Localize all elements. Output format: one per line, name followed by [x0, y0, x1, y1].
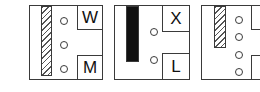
circle-icon	[60, 17, 68, 25]
circle-icon	[235, 33, 243, 41]
label-box-top: W	[77, 5, 103, 30]
circle-icon	[235, 16, 243, 24]
label-box-top: V	[251, 5, 260, 30]
label-box-bottom: L	[162, 53, 190, 80]
circle-icon	[235, 68, 243, 76]
circle-icon	[60, 65, 68, 73]
solid-bar	[126, 6, 139, 62]
label-box-bottom: M	[77, 55, 103, 80]
panel-1: W M	[29, 5, 103, 80]
panel-3: V I	[201, 5, 260, 80]
circle-icon	[235, 51, 243, 59]
label-box-bottom: I	[251, 55, 260, 80]
circle-icon	[60, 41, 68, 49]
label-box-top: X	[162, 5, 190, 32]
circle-icon	[150, 28, 158, 36]
hatched-bar	[214, 6, 226, 48]
panel-2: X L	[114, 5, 190, 80]
circle-icon	[150, 56, 158, 64]
hatched-bar	[41, 6, 52, 76]
